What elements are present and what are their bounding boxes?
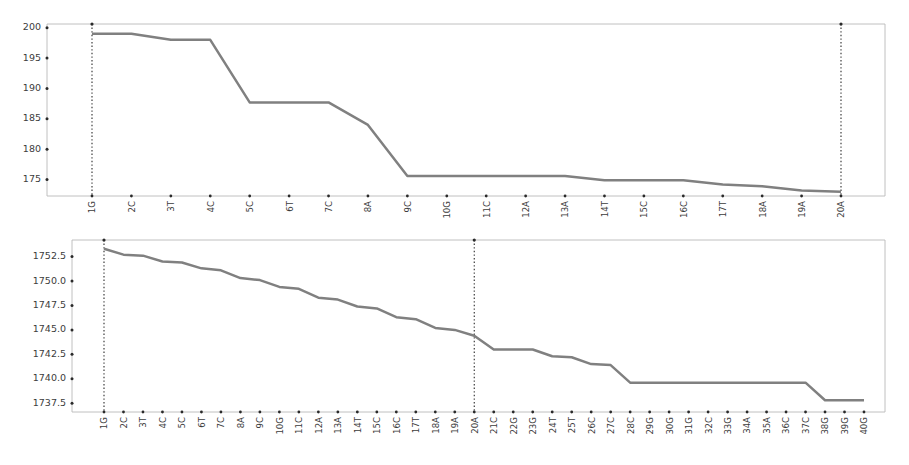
x-tick-label: 34A: [742, 417, 752, 434]
x-tick-mark: [142, 411, 145, 414]
x-tick-label: 17T: [718, 200, 728, 217]
y-tick-mark: [46, 87, 49, 90]
y-tick-label: 180: [23, 143, 41, 154]
x-tick-mark: [161, 411, 164, 414]
y-tick-mark: [71, 328, 74, 331]
x-tick-label: 15C: [372, 417, 382, 434]
x-tick-mark: [765, 411, 768, 414]
x-tick-label: 3T: [166, 200, 176, 211]
x-tick-mark: [200, 411, 203, 414]
x-tick-label: 20A: [836, 201, 846, 218]
x-tick-mark: [130, 195, 133, 198]
x-tick-label: 28C: [626, 417, 636, 434]
x-tick-mark: [169, 195, 172, 198]
x-tick-mark: [512, 411, 515, 414]
x-tick-mark: [551, 411, 554, 414]
x-tick-label: 5C: [245, 201, 255, 212]
x-tick-mark: [297, 411, 300, 414]
y-tick-label: 1745.0: [33, 323, 66, 334]
x-tick-mark: [248, 195, 251, 198]
x-tick-label: 18A: [431, 417, 441, 434]
x-tick-mark: [336, 411, 339, 414]
x-tick-label: 37C: [801, 417, 811, 434]
x-tick-mark: [682, 195, 685, 198]
y-tick-label: 190: [23, 82, 41, 93]
data-series-line: [104, 249, 864, 400]
x-tick-mark: [840, 195, 843, 198]
x-tick-label: 4C: [158, 417, 168, 428]
x-tick-mark: [406, 195, 409, 198]
y-tick-label: 1737.5: [33, 397, 66, 408]
y-tick-mark: [71, 402, 74, 405]
x-tick-label: 26C: [587, 417, 597, 434]
x-tick-mark: [590, 411, 593, 414]
x-tick-label: 3T: [138, 416, 148, 427]
x-tick-mark: [746, 411, 749, 414]
x-tick-label: 13A: [333, 417, 343, 434]
x-tick-mark: [824, 411, 827, 414]
x-tick-label: 21C: [489, 417, 499, 434]
y-tick-label: 1740.0: [33, 372, 66, 383]
x-tick-label: 6T: [285, 200, 295, 211]
chart-panel-top: 1751801851901952001G2C3T4C5C6T7C8A9C10G1…: [0, 0, 909, 232]
x-tick-mark: [564, 195, 567, 198]
vertical-marker-cap: [473, 238, 476, 241]
x-tick-label: 5C: [177, 417, 187, 428]
x-tick-mark: [288, 195, 291, 198]
data-series-line: [92, 34, 841, 192]
x-tick-label: 7C: [216, 417, 226, 428]
x-tick-mark: [863, 411, 866, 414]
vertical-marker-cap: [102, 238, 105, 241]
x-tick-mark: [209, 195, 212, 198]
x-tick-label: 7C: [324, 201, 334, 212]
x-tick-mark: [761, 195, 764, 198]
x-tick-mark: [721, 195, 724, 198]
x-tick-label: 13A: [560, 201, 570, 218]
x-tick-mark: [91, 195, 94, 198]
x-tick-label: 8A: [236, 417, 246, 428]
x-tick-mark: [278, 411, 281, 414]
x-tick-mark: [524, 195, 527, 198]
y-tick-label: 200: [23, 21, 41, 32]
x-tick-label: 6T: [197, 416, 207, 427]
x-tick-label: 19A: [450, 417, 460, 434]
figure-canvas: 1751801851901952001G2C3T4C5C6T7C8A9C10G1…: [0, 0, 909, 465]
x-tick-label: 29G: [645, 417, 655, 435]
x-tick-mark: [629, 411, 632, 414]
x-tick-label: 15C: [639, 201, 649, 218]
x-tick-mark: [356, 411, 359, 414]
x-tick-mark: [239, 411, 242, 414]
x-tick-mark: [181, 411, 184, 414]
x-tick-label: 30G: [665, 417, 675, 435]
y-tick-mark: [46, 26, 49, 29]
y-tick-label: 1752.5: [33, 250, 66, 261]
x-tick-label: 14T: [600, 200, 610, 217]
x-tick-mark: [367, 195, 370, 198]
x-tick-label: 23G: [528, 417, 538, 435]
x-tick-label: 9C: [403, 201, 413, 212]
x-tick-mark: [122, 411, 125, 414]
x-tick-mark: [414, 411, 417, 414]
x-tick-mark: [327, 195, 330, 198]
x-tick-label: 22G: [509, 417, 519, 435]
x-tick-label: 39G: [840, 417, 850, 435]
x-tick-mark: [570, 411, 573, 414]
x-tick-mark: [804, 411, 807, 414]
x-tick-label: 31G: [684, 417, 694, 435]
x-tick-mark: [668, 411, 671, 414]
y-tick-mark: [46, 148, 49, 151]
x-tick-label: 9C: [255, 417, 265, 428]
x-tick-label: 35A: [762, 417, 772, 434]
x-tick-mark: [453, 411, 456, 414]
x-tick-mark: [642, 195, 645, 198]
y-tick-mark: [71, 377, 74, 380]
y-tick-mark: [71, 255, 74, 258]
x-tick-label: 18A: [758, 201, 768, 218]
y-tick-mark: [71, 304, 74, 307]
x-tick-mark: [258, 411, 261, 414]
x-tick-label: 36C: [781, 417, 791, 434]
y-tick-mark: [71, 280, 74, 283]
x-tick-label: 38G: [820, 417, 830, 435]
x-tick-label: 4C: [206, 201, 216, 212]
x-tick-mark: [485, 195, 488, 198]
